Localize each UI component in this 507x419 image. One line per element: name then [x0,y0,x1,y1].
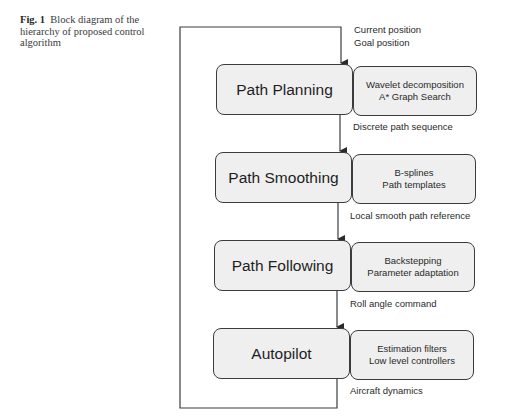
input-label-current-position: Current position [354,24,421,36]
method-label: B-splines [394,167,433,179]
output-label-discrete-path: Discrete path sequence [353,121,453,133]
method-label: Wavelet decomposition [366,79,464,91]
output-label-roll-angle: Roll angle command [350,298,437,310]
block-title: Path Planning [236,81,333,99]
output-label-local-smooth-path: Local smooth path reference [350,210,470,222]
block-path-smoothing: Path Smoothing [215,152,352,203]
block-path-smoothing-methods: B-splines Path templates [352,154,476,204]
block-path-planning-methods: Wavelet decomposition A* Graph Search [353,66,477,116]
block-path-following: Path Following [214,240,351,291]
block-title: Path Smoothing [228,169,338,187]
block-autopilot-methods: Estimation filters Low level controllers [350,330,474,380]
method-label: Parameter adaptation [367,267,458,279]
block-autopilot: Autopilot [213,328,350,379]
block-title: Path Following [232,257,334,275]
method-label: Backstepping [384,255,441,267]
input-label-goal-position: Goal position [354,37,409,49]
method-label: Estimation filters [377,343,447,355]
block-title: Autopilot [251,345,311,363]
method-label: Low level controllers [369,355,455,367]
block-path-following-methods: Backstepping Parameter adaptation [351,242,475,292]
block-path-planning: Path Planning [216,64,353,115]
method-label: Path templates [382,179,445,191]
output-label-aircraft-dynamics: Aircraft dynamics [350,385,423,397]
method-label: A* Graph Search [379,91,451,103]
